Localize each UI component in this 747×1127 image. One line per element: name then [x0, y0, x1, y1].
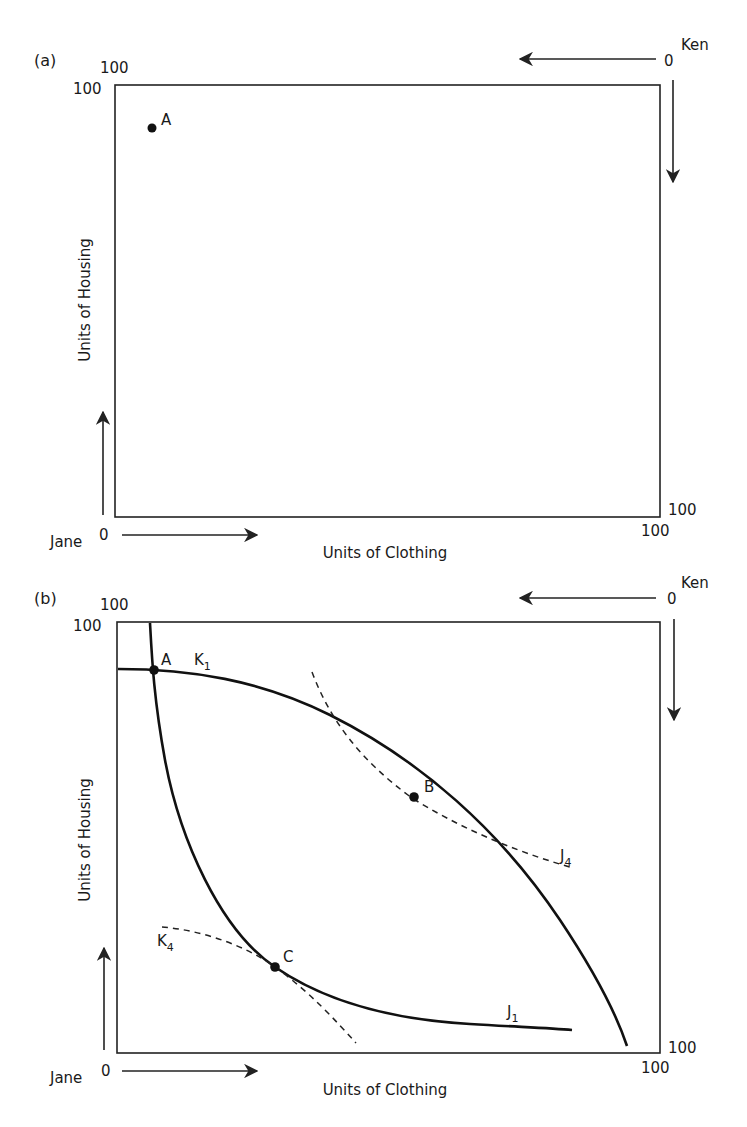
- edgeworth-box-a: [115, 85, 660, 517]
- point-b: [409, 792, 419, 802]
- x-axis-label: Units of Clothing: [323, 1081, 448, 1099]
- x-axis-label: Units of Clothing: [323, 544, 448, 562]
- top-y-max-label: 100: [73, 80, 102, 98]
- y-axis-label: Units of Housing: [76, 238, 94, 361]
- curve-k4: [162, 927, 356, 1043]
- curve-j1: [150, 623, 572, 1030]
- point-c-label: C: [283, 948, 293, 966]
- panel-b-label: (b): [34, 589, 57, 608]
- y-axis-label: Units of Housing: [76, 778, 94, 901]
- bottom-y-max-label: 100: [668, 1039, 697, 1057]
- bottom-x-max-label: 100: [641, 1059, 670, 1077]
- panel-b: (b) 100 100 0 Ken A B C K1 J4 K4 J1 Unit…: [34, 574, 709, 1099]
- curve-k1-label: K1: [194, 651, 211, 673]
- top-y-max-label: 100: [73, 617, 102, 635]
- jane-label: Jane: [49, 1069, 82, 1087]
- ken-label: Ken: [681, 36, 709, 54]
- edgeworth-box-b: [117, 622, 660, 1053]
- bottom-y-max-label: 100: [668, 501, 697, 519]
- jane-label: Jane: [49, 533, 82, 551]
- point-a: [148, 124, 157, 133]
- point-c: [270, 962, 280, 972]
- point-a: [149, 665, 159, 675]
- ken-origin: 0: [664, 52, 674, 70]
- top-x-max-label: 100: [100, 596, 129, 614]
- jane-origin: 0: [99, 526, 109, 544]
- point-a-label: A: [161, 111, 172, 129]
- ken-label: Ken: [681, 574, 709, 592]
- point-b-label: B: [424, 778, 434, 796]
- panel-a: (a) 100 100 0 Ken A Units of Housing Jan…: [34, 36, 709, 562]
- curve-j4: [312, 672, 573, 868]
- curve-k4-label: K4: [157, 932, 174, 954]
- bottom-x-max-label: 100: [641, 522, 670, 540]
- panel-a-label: (a): [34, 51, 56, 70]
- curve-j4-label: J4: [559, 847, 571, 869]
- edgeworth-box-figure: (a) 100 100 0 Ken A Units of Housing Jan…: [0, 0, 747, 1127]
- jane-origin: 0: [101, 1062, 111, 1080]
- ken-origin: 0: [667, 590, 677, 608]
- curve-j1-label: J1: [506, 1003, 518, 1025]
- point-a-label: A: [161, 651, 172, 669]
- top-x-max-label: 100: [100, 59, 129, 77]
